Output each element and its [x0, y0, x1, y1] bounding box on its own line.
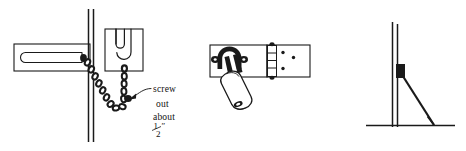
chain-link [121, 72, 128, 81]
annotation-fraction-half-inch: 1 2 ″ [152, 121, 166, 139]
screw-hole [281, 51, 284, 54]
mounting-screw [121, 64, 128, 72]
slide-plate-with-slot [14, 44, 90, 71]
inch-mark: ″ [162, 121, 166, 131]
annotation-text: screw out about 1 2 ″ [152, 84, 176, 139]
figure-root: screw out about 1 2 ″ [0, 0, 466, 151]
annotation-line-screw: screw [153, 84, 176, 94]
panel-braced-post [366, 22, 455, 127]
hinge-knuckles [268, 42, 277, 80]
chain-link [120, 79, 127, 88]
technical-illustration: screw out about 1 2 ″ [0, 0, 466, 151]
panel-chain-lock: screw out about 1 2 ″ [14, 9, 176, 142]
screw-hole [292, 56, 295, 59]
brace-foot [428, 117, 435, 126]
chain-link [120, 87, 128, 96]
annotation-line-out: out [156, 99, 169, 109]
callout-arrow [128, 89, 151, 100]
panel-hasp-padlock [210, 42, 310, 109]
screw-hole [281, 67, 284, 70]
fraction-denominator: 2 [156, 129, 161, 139]
security-chain-upper-leg [117, 72, 128, 111]
diagonal-brace [399, 70, 434, 125]
